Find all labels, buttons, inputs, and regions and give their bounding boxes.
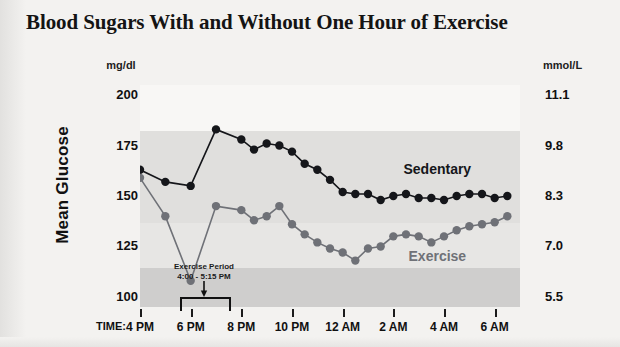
x-tick-4 — [343, 309, 345, 317]
data-point-exercise-1 — [161, 212, 169, 220]
data-point-sedentary-24 — [490, 194, 498, 202]
down-arrow-icon — [199, 281, 209, 297]
data-point-sedentary-8 — [288, 147, 296, 155]
data-point-sedentary-20 — [440, 196, 448, 204]
y-axis-label: Mean Glucose — [53, 110, 73, 260]
data-point-sedentary-19 — [427, 194, 435, 202]
data-point-sedentary-22 — [465, 190, 473, 198]
y-tick-left-125: 125 — [92, 238, 138, 253]
data-point-sedentary-12 — [338, 188, 346, 196]
data-point-sedentary-0 — [140, 166, 144, 174]
data-point-exercise-13 — [351, 256, 359, 264]
data-point-sedentary-21 — [452, 192, 460, 200]
data-point-exercise-7 — [275, 202, 283, 210]
data-point-exercise-8 — [288, 220, 296, 228]
data-point-sedentary-25 — [503, 192, 511, 200]
y-tick-right-8.3: 8.3 — [545, 188, 591, 203]
data-point-exercise-15 — [376, 242, 384, 250]
data-point-exercise-6 — [262, 212, 270, 220]
data-point-exercise-19 — [427, 238, 435, 246]
data-point-exercise-17 — [402, 230, 410, 238]
data-point-exercise-12 — [338, 248, 346, 256]
data-point-sedentary-7 — [275, 141, 283, 149]
data-point-exercise-11 — [326, 244, 334, 252]
x-tick-label-7: 6 AM — [465, 320, 525, 334]
y-tick-left-175: 175 — [92, 138, 138, 153]
data-point-sedentary-3 — [212, 125, 220, 133]
data-point-sedentary-18 — [414, 194, 422, 202]
data-point-sedentary-9 — [300, 160, 308, 168]
y-tick-left-100: 100 — [92, 289, 138, 304]
left-axis-unit: mg/dl — [95, 59, 147, 71]
y-tick-right-11.1: 11.1 — [545, 87, 591, 102]
data-point-exercise-4 — [237, 206, 245, 214]
legend-label-exercise: Exercise — [409, 248, 467, 264]
data-point-sedentary-10 — [313, 166, 321, 174]
data-point-sedentary-14 — [364, 190, 372, 198]
paper-edge-left — [0, 0, 26, 347]
data-point-sedentary-15 — [376, 196, 384, 204]
x-tick-1 — [191, 309, 193, 317]
right-axis-unit: mmol/L — [543, 59, 603, 71]
chart-figure: Blood Sugars With and Without One Hour o… — [0, 0, 620, 347]
data-point-exercise-9 — [300, 230, 308, 238]
data-point-sedentary-16 — [389, 192, 397, 200]
data-point-exercise-24 — [490, 218, 498, 226]
x-tick-5 — [393, 309, 395, 317]
data-point-exercise-14 — [364, 244, 372, 252]
data-point-sedentary-17 — [402, 190, 410, 198]
data-point-sedentary-2 — [186, 182, 194, 190]
annotation-line-1: Exercise Period — [148, 262, 260, 272]
x-tick-0 — [140, 309, 142, 317]
x-tick-2 — [241, 309, 243, 317]
time-axis-label: TIME: — [96, 320, 126, 332]
chart-title: Blood Sugars With and Without One Hour o… — [26, 10, 606, 35]
y-tick-left-150: 150 — [92, 188, 138, 203]
x-tick-6 — [444, 309, 446, 317]
data-point-exercise-0 — [140, 174, 144, 182]
data-point-sedentary-1 — [161, 178, 169, 186]
data-point-exercise-22 — [465, 222, 473, 230]
exercise-period-annotation: Exercise Period 4:00 - 5:15 PM — [148, 262, 260, 282]
data-point-sedentary-13 — [351, 190, 359, 198]
data-point-sedentary-5 — [250, 145, 258, 153]
y-tick-right-7.0: 7.0 — [545, 238, 591, 253]
y-tick-right-5.5: 5.5 — [545, 289, 591, 304]
data-point-exercise-5 — [250, 216, 258, 224]
data-point-exercise-16 — [389, 232, 397, 240]
data-point-sedentary-4 — [237, 135, 245, 143]
data-point-exercise-18 — [414, 232, 422, 240]
data-point-sedentary-6 — [262, 139, 270, 147]
data-point-sedentary-11 — [326, 176, 334, 184]
data-point-exercise-20 — [440, 232, 448, 240]
data-point-exercise-21 — [452, 226, 460, 234]
x-tick-7 — [495, 309, 497, 317]
data-point-sedentary-23 — [478, 190, 486, 198]
data-point-exercise-10 — [313, 238, 321, 246]
data-point-exercise-3 — [212, 202, 220, 210]
legend-label-sedentary: Sedentary — [403, 161, 471, 177]
data-point-exercise-23 — [478, 220, 486, 228]
x-tick-3 — [292, 309, 294, 317]
exercise-period-bracket — [180, 297, 231, 311]
paper-edge-bottom — [0, 337, 620, 347]
y-tick-right-9.8: 9.8 — [545, 138, 591, 153]
data-point-exercise-25 — [503, 212, 511, 220]
y-tick-left-200: 200 — [92, 87, 138, 102]
